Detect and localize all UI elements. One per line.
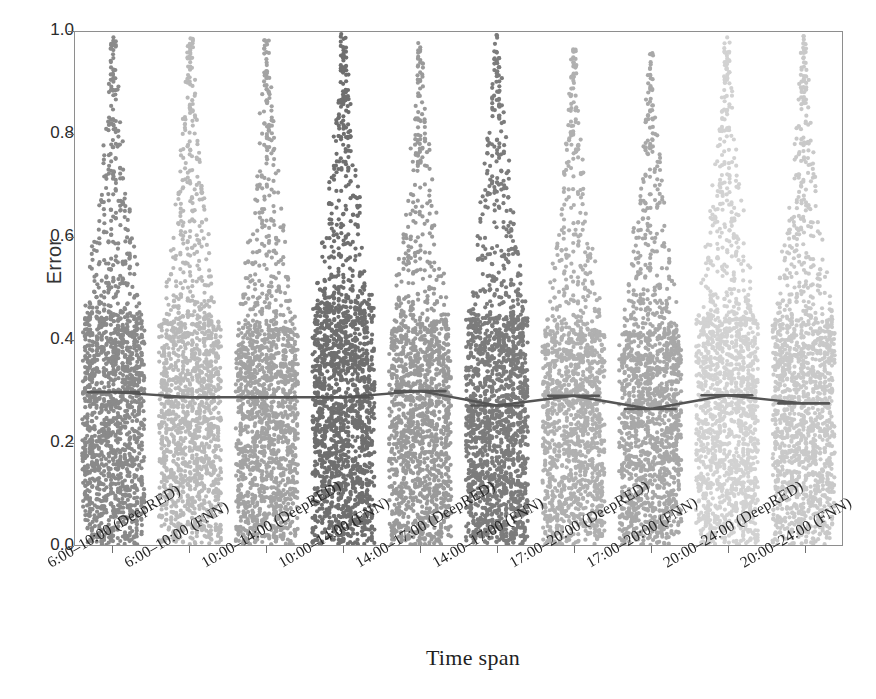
y-tick-label: 1.0 xyxy=(28,20,74,40)
x-tick-mark xyxy=(266,546,267,553)
chart-figure: 0.00.20.40.60.81.0 Error 6:00–10:00 (Dee… xyxy=(0,0,876,699)
y-axis: 0.00.20.40.60.81.0 xyxy=(0,0,74,699)
x-tick-mark xyxy=(189,546,190,553)
x-axis-label: Time span xyxy=(426,645,520,671)
beeswarm-scatter-canvas xyxy=(75,32,842,545)
plot-area xyxy=(74,31,843,546)
x-tick-mark xyxy=(343,546,344,553)
y-axis-label: Error xyxy=(43,202,66,322)
x-tick-mark xyxy=(728,546,729,553)
x-tick-mark xyxy=(497,546,498,553)
y-tick-label: 0.2 xyxy=(28,432,74,452)
x-tick-mark xyxy=(420,546,421,553)
x-tick-mark xyxy=(574,546,575,553)
x-axis-label-wrapper: Time span xyxy=(0,645,876,671)
x-tick-mark xyxy=(112,546,113,553)
y-tick-label: 0.4 xyxy=(28,329,74,349)
x-tick-mark xyxy=(651,546,652,553)
x-tick-mark xyxy=(805,546,806,553)
y-tick-label: 0.8 xyxy=(28,123,74,143)
